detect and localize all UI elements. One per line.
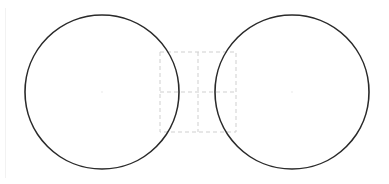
two-circles-diagram: [0, 0, 389, 184]
right-circle-center-dot: [291, 91, 293, 93]
left-circle-center-dot: [101, 91, 103, 93]
diagram-canvas: [0, 0, 389, 184]
dashed-guide-grid: [160, 52, 236, 132]
